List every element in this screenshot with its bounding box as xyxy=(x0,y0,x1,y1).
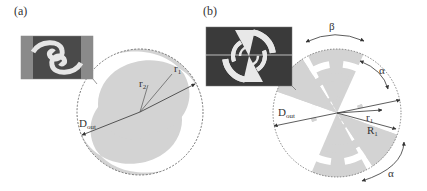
alpha-bottom-label: α xyxy=(388,167,394,179)
antenna-diagram: r1 r2 Dout xyxy=(0,0,427,191)
spiral-photo-inset xyxy=(21,36,97,84)
alpha-top-label: α xyxy=(379,64,385,76)
beta-label: β xyxy=(329,20,335,32)
beta-arc xyxy=(306,35,364,42)
log-periodic-photo-inset xyxy=(206,27,296,90)
